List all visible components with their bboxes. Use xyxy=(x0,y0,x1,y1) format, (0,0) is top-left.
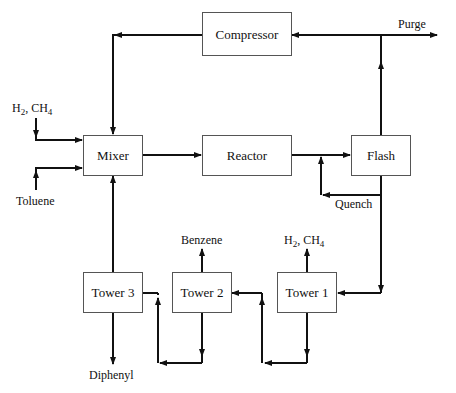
tower2-label: Tower 2 xyxy=(181,285,224,300)
reactor-unit: Reactor xyxy=(203,136,292,176)
quench-label: Quench xyxy=(335,197,372,211)
process-flow-diagram: Compressor Mixer Reactor Flash Tower 3 T… xyxy=(0,0,456,393)
compressor-label: Compressor xyxy=(216,27,280,42)
h2-ch4-feed-line xyxy=(36,118,82,140)
tower2-unit: Tower 2 xyxy=(173,273,232,313)
tower3-label: Tower 3 xyxy=(92,285,135,300)
mixer-unit: Mixer xyxy=(84,136,143,176)
reactor-label: Reactor xyxy=(227,148,268,163)
tower3-unit: Tower 3 xyxy=(84,273,143,313)
compressor-to-mixer-line xyxy=(113,35,202,134)
toluene-label: Toluene xyxy=(16,194,54,208)
diphenyl-label: Diphenyl xyxy=(89,368,134,382)
tower1-label: Tower 1 xyxy=(286,285,329,300)
flash-label: Flash xyxy=(367,148,396,163)
toluene-feed-line xyxy=(36,168,82,190)
h2-ch4-feed-label: H2, CH4 xyxy=(12,101,53,117)
flash-unit: Flash xyxy=(352,136,411,176)
benzene-label: Benzene xyxy=(181,233,222,247)
purge-label: Purge xyxy=(398,17,426,31)
h2-ch4-overhead-label: H2, CH4 xyxy=(284,233,325,249)
compressor-unit: Compressor xyxy=(203,13,292,56)
mixer-label: Mixer xyxy=(97,148,129,163)
tower1-unit: Tower 1 xyxy=(278,273,337,313)
